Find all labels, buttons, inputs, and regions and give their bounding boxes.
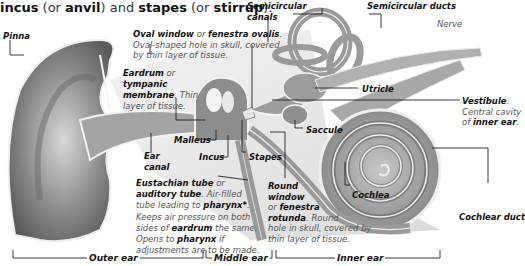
label-eustachian-tube: Eustachian tube or auditory tube. Air-fi…	[136, 178, 260, 256]
incus-shape	[222, 91, 234, 113]
label-eardrum: Eardrum or tympanic membrane. Thin layer…	[123, 68, 198, 112]
section-inner-ear: Inner ear	[335, 253, 385, 263]
label-cochlea: Cochlea	[352, 190, 390, 201]
label-semicircular-canals: Semicircular canals	[247, 1, 307, 22]
malleus-shape	[206, 88, 222, 112]
label-oval-window: Oval window or fenestra ovalis. Oval-sha…	[133, 29, 282, 61]
label-vestibule: Vestibule. Central cavity of inner ear.	[462, 96, 521, 128]
label-cochlear-duct: Cochlear duct	[459, 212, 525, 223]
middle-ear-cavity	[195, 78, 248, 140]
label-utricle: Utricle	[362, 84, 394, 95]
label-malleus: Malleus	[174, 135, 211, 146]
label-semicircular-ducts: Semicircular ducts	[367, 1, 456, 12]
label-incus: Incus	[199, 152, 224, 163]
label-saccule: Saccule	[306, 125, 343, 136]
label-nerve: Nerve	[437, 19, 462, 30]
label-ear-canal: Ear canal	[144, 151, 169, 172]
section-middle-ear: Middle ear	[212, 253, 270, 263]
label-pinna: Pinna	[3, 31, 30, 42]
label-stapes: Stapes	[249, 152, 282, 163]
section-outer-ear: Outer ear	[87, 253, 140, 263]
